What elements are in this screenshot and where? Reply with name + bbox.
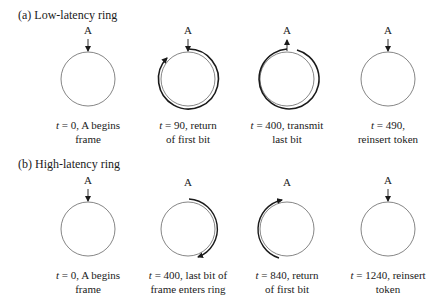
caption-a4: t = 490, reinsert token — [328, 118, 439, 146]
ring-b1 — [61, 189, 115, 256]
ring-b3 — [258, 200, 314, 258]
frame-arc — [258, 200, 282, 258]
frame-arc — [158, 49, 218, 109]
ring-b4 — [361, 189, 415, 256]
caption-b4: t = 1240, reinsert token — [328, 268, 439, 296]
frame-arc — [259, 49, 319, 109]
ring-b2 — [161, 199, 217, 257]
ring-a1 — [61, 39, 115, 106]
frame-arc — [189, 199, 217, 257]
ring-a3 — [259, 40, 319, 109]
ring-diagrams — [0, 0, 439, 308]
ring-a2 — [158, 39, 218, 109]
ring-a4 — [361, 39, 415, 106]
